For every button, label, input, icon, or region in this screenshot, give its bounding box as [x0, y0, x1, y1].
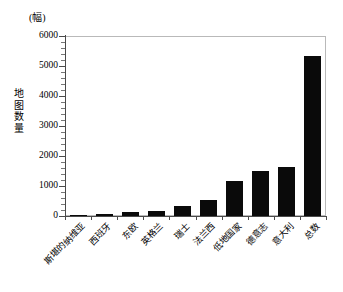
x-tick-label: 德意志	[244, 221, 270, 247]
x-tick-label: 瑞士	[172, 221, 192, 241]
x-tick-label: 西班牙	[87, 221, 113, 247]
x-tick-label: 东欧	[120, 221, 140, 241]
x-tick-label: 总数	[302, 221, 322, 241]
x-tick-label: 意大利	[270, 221, 296, 247]
bar-chart: (幅) 地 图 数 量 0100020003000400050006000 斯堪…	[0, 0, 343, 292]
x-tick-label: 斯堪的纳维亚	[42, 221, 87, 266]
x-tick-label: 低地国家	[211, 221, 244, 254]
x-axis-labels: 斯堪的纳维亚西班牙东欧英格兰瑞士法兰西低地国家德意志意大利总数	[0, 0, 343, 292]
x-tick-label: 英格兰	[139, 221, 165, 247]
